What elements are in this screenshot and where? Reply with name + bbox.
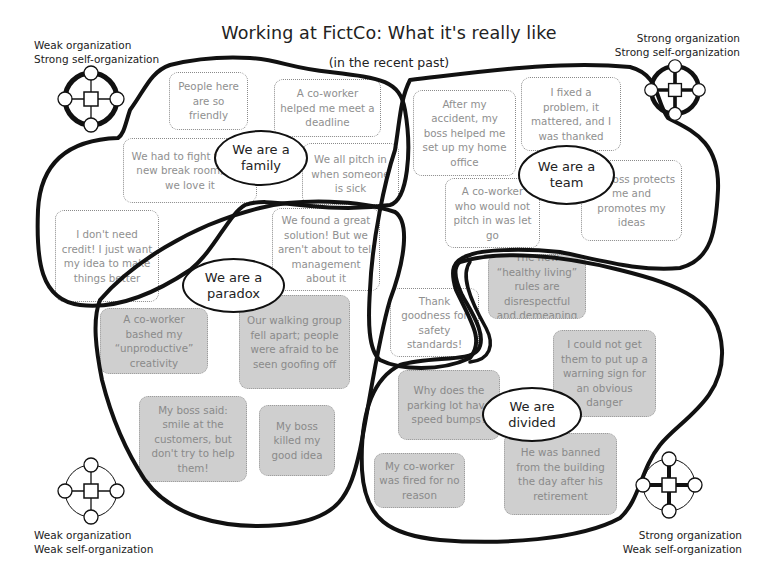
corner-label-bottom-right: Strong organization Weak self-organizati…	[623, 528, 742, 556]
cluster-label-family: We are a family	[214, 130, 308, 186]
cluster-label-team: We are a team	[518, 145, 615, 205]
cluster-label-text: We are a paradox	[198, 270, 270, 302]
corner-label-top-left: Weak organization Strong self-organizati…	[34, 38, 159, 66]
cluster-label-divided: We are divided	[482, 387, 582, 442]
story-card: We found a great solution! But we aren't…	[272, 208, 380, 291]
cluster-label-text: We are divided	[501, 399, 563, 431]
story-card: People here are so friendly	[169, 72, 248, 130]
network-weak-org-strong-self-icon	[55, 63, 127, 135]
cluster-label-text: We are a team	[536, 159, 598, 191]
story-card: A co-worker bashed my “unproductive” cre…	[100, 308, 208, 374]
corner-label-top-right: Strong organization Strong self-organiza…	[615, 31, 740, 59]
story-card: A co-worker helped me meet a deadline	[274, 79, 381, 137]
story-card: He was banned from the building the day …	[504, 433, 617, 515]
cluster-label-text: We are a family	[231, 142, 291, 174]
story-card: My boss killed my good idea	[259, 405, 335, 476]
diagram-canvas: Working at FictCo: What it's really like…	[0, 0, 762, 585]
cluster-label-paradox: We are a paradox	[182, 258, 285, 313]
network-weak-org-weak-self-icon	[55, 455, 127, 527]
corner-label-line: Weak self-organization	[623, 542, 742, 556]
corner-label-line: Weak organization	[34, 38, 159, 52]
corner-label-line: Strong organization	[623, 528, 742, 542]
story-card: After my accident, my boss helped me set…	[413, 90, 516, 176]
story-card: Thank goodness for safety standards!	[390, 288, 479, 357]
story-card: My boss said: smile at the customers, bu…	[139, 396, 247, 482]
corner-label-line: Weak self-organization	[34, 542, 153, 556]
story-card: We all pitch in when someone is sick	[302, 143, 399, 205]
corner-label-bottom-left: Weak organization Weak self-organization	[34, 528, 153, 556]
corner-label-line: Strong organization	[615, 31, 740, 45]
story-card: I don't need credit! I just want my idea…	[55, 210, 159, 302]
network-strong-org-weak-self-icon	[633, 449, 705, 521]
network-strong-org-strong-self-icon	[642, 57, 708, 123]
corner-label-line: Weak organization	[34, 528, 153, 542]
story-card: My co-worker was fired for no reason	[374, 453, 465, 508]
story-card: I fixed a problem, it mattered, and I wa…	[521, 77, 621, 151]
story-card: The new “healthy living” rules are disre…	[488, 254, 586, 319]
